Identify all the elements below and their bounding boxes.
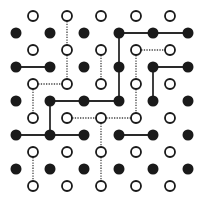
filled-dot (79, 96, 90, 107)
filled-dot (114, 164, 125, 175)
filled-dot (183, 96, 194, 107)
open-dot (28, 181, 38, 191)
open-dot (96, 147, 106, 157)
filled-dot (45, 96, 56, 107)
filled-dot (11, 130, 22, 141)
open-dot (165, 79, 175, 89)
filled-dot (114, 28, 125, 39)
filled-dot (45, 28, 56, 39)
open-dot (165, 181, 175, 191)
open-dot (62, 181, 72, 191)
open-dot (62, 79, 72, 89)
filled-dot (114, 62, 125, 73)
filled-dot (148, 96, 159, 107)
filled-dot (79, 164, 90, 175)
open-dot (96, 11, 106, 21)
open-dot (28, 11, 38, 21)
open-dot (96, 113, 106, 123)
filled-dot (79, 130, 90, 141)
filled-dot (183, 62, 194, 73)
open-dot (131, 181, 141, 191)
filled-dot (11, 28, 22, 39)
open-dot (96, 181, 106, 191)
open-dot (62, 11, 72, 21)
filled-dot (11, 62, 22, 73)
open-dot (62, 147, 72, 157)
open-dot (165, 11, 175, 21)
open-dot (131, 45, 141, 55)
filled-dot (79, 62, 90, 73)
open-dot (28, 45, 38, 55)
open-dot (28, 147, 38, 157)
filled-dot (148, 28, 159, 39)
filled-dot (183, 130, 194, 141)
open-dot (96, 45, 106, 55)
filled-dot (45, 62, 56, 73)
dot-lattice-diagram (0, 0, 207, 207)
filled-dot (148, 164, 159, 175)
filled-dot (11, 164, 22, 175)
open-dot (28, 79, 38, 89)
open-dot (131, 147, 141, 157)
open-dot (96, 79, 106, 89)
open-dot (131, 11, 141, 21)
open-dot (28, 113, 38, 123)
filled-dot (45, 164, 56, 175)
filled-dot (114, 96, 125, 107)
filled-dot (79, 28, 90, 39)
filled-dot (114, 130, 125, 141)
filled-dot (183, 164, 194, 175)
open-dot (165, 45, 175, 55)
open-dot (62, 113, 72, 123)
open-dot (62, 45, 72, 55)
filled-dot (45, 130, 56, 141)
open-dot (131, 113, 141, 123)
filled-dot (148, 62, 159, 73)
filled-dot (183, 28, 194, 39)
open-dot (165, 113, 175, 123)
filled-dot (148, 130, 159, 141)
open-dot (165, 147, 175, 157)
open-dot (131, 79, 141, 89)
filled-dot (11, 96, 22, 107)
